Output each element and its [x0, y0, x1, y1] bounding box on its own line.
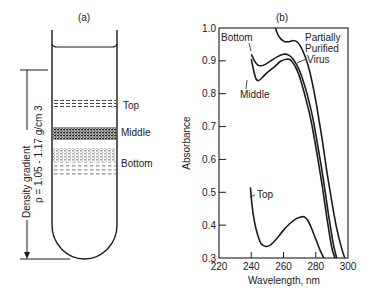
y-axis: 0.30.40.50.60.70.80.91.0 — [202, 23, 226, 264]
curve-label-middle: Middle — [240, 89, 270, 100]
leader-bottom — [249, 43, 251, 51]
panel-b: (b) 220240260280300 0.30.40.50.60.70.80.… — [181, 12, 357, 286]
x-tick-label: 280 — [307, 261, 324, 272]
x-tick-label: 300 — [340, 261, 357, 272]
meniscus — [52, 44, 117, 47]
x-axis-label: Wavelength, nm — [248, 275, 320, 286]
x-tick-label: 240 — [243, 261, 260, 272]
band-bottom-lower — [53, 162, 116, 175]
curve-label-virus-3: Virus — [307, 54, 330, 65]
y-tick-label: 1.0 — [202, 23, 216, 34]
band-bottom — [53, 148, 116, 162]
y-tick-label: 0.4 — [202, 220, 216, 231]
band-middle — [53, 127, 116, 140]
gradient-arrow-icon — [24, 252, 30, 259]
leader-virus — [297, 59, 306, 63]
y-tick-label: 0.3 — [202, 253, 216, 264]
band-label-middle: Middle — [121, 127, 151, 138]
band-label-top: Top — [123, 100, 140, 111]
y-tick-label: 0.5 — [202, 187, 216, 198]
band-top — [53, 100, 116, 108]
y-tick-label: 0.8 — [202, 88, 216, 99]
panel-a: (a) Top Middle Bottom Density gradient ρ… — [20, 12, 153, 259]
x-axis: 220240260280300 — [211, 252, 357, 272]
x-tick-label: 260 — [275, 261, 292, 272]
curve-label-top: Top — [257, 189, 274, 200]
band-label-bottom: Bottom — [121, 158, 153, 169]
curve-label-virus-1: Partially — [305, 32, 341, 43]
gradient-range-label: ρ = 1.05 - 1.17 g/cm 3 — [33, 105, 44, 203]
y-tick-label: 0.7 — [202, 121, 216, 132]
leader-middle — [246, 80, 247, 89]
curve-label-virus-2: Purified — [305, 43, 339, 54]
y-tick-label: 0.6 — [202, 154, 216, 165]
panel-b-label: (b) — [276, 12, 288, 23]
curve-label-bottom: Bottom — [221, 32, 253, 43]
y-axis-label: Absorbance — [181, 116, 192, 170]
y-tick-label: 0.9 — [202, 55, 216, 66]
centrifuge-tube — [52, 30, 117, 259]
figure: (a) Top Middle Bottom Density gradient ρ… — [0, 0, 370, 295]
gradient-label: Density gradient — [21, 146, 32, 218]
panel-a-label: (a) — [78, 12, 90, 23]
